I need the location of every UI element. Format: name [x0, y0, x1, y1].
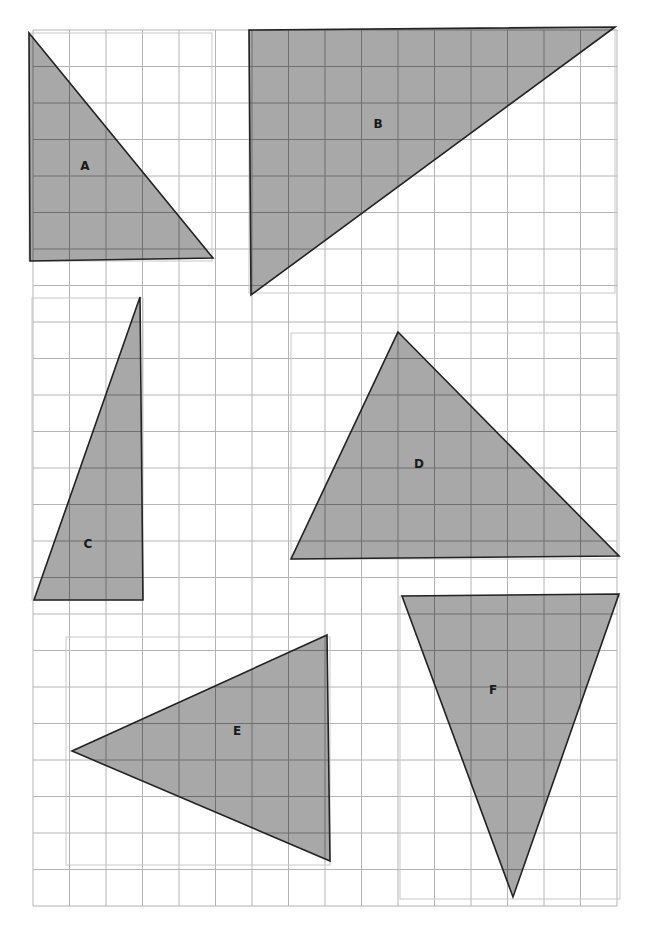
triangle-label-d: D — [414, 457, 424, 471]
triangle-label-a: A — [80, 159, 90, 173]
triangle-label-f: F — [489, 683, 497, 697]
triangle-label-c: C — [84, 537, 93, 551]
triangles — [29, 27, 619, 906]
triangle-label-b: B — [373, 117, 382, 131]
grid-worksheet: A B C D E F — [0, 0, 660, 931]
grid-paper: A B C D E F — [0, 0, 660, 931]
triangle-label-e: E — [233, 724, 241, 738]
